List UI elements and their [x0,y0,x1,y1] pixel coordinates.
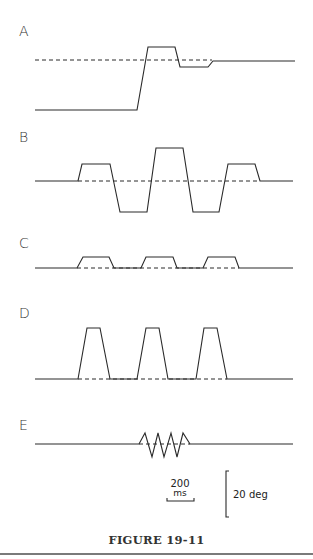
panel-e: E [19,417,293,457]
time-scale-unit: ms [173,488,187,498]
scale-bars: 200 ms 20 deg [167,471,268,517]
panel-c: C [19,235,293,268]
panel-a: A [19,23,295,110]
trace-panels: ABCDE [19,23,295,457]
panel-label: B [19,129,28,145]
amplitude-scale-label: 20 deg [233,489,268,500]
amplitude-scale-line [226,471,229,517]
panel-label: E [19,417,28,433]
panel-d: D [19,305,293,379]
time-scale-line [167,498,194,501]
eye-position-trace [35,47,295,110]
figure-19-11: ABCDE 200 ms 20 deg [0,0,313,559]
eye-position-trace [35,148,293,212]
figure-caption: FIGURE 19-11 [0,533,313,547]
eye-position-trace [35,328,293,379]
time-scale-bar: 200 ms [167,478,194,501]
panel-label: D [19,305,30,321]
panel-b: B [19,129,293,212]
panel-label: C [19,235,29,251]
amplitude-scale-bar: 20 deg [226,471,268,517]
eye-position-trace [35,433,293,457]
horizontal-rule [0,553,313,555]
eye-position-trace [35,257,293,268]
panel-label: A [19,23,29,39]
